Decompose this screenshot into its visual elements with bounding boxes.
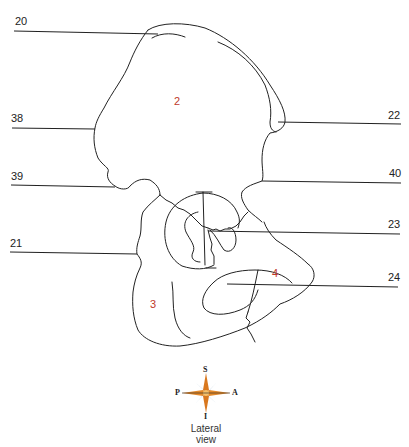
compass-inferior-label: I	[204, 413, 207, 421]
label-40: 40	[389, 168, 401, 179]
leader-line-40	[262, 181, 401, 183]
label-20: 20	[15, 16, 27, 27]
view-caption-line-2: view	[176, 435, 236, 446]
compass-posterior-label: P	[175, 389, 180, 397]
view-caption-line-1: Lateral	[176, 424, 236, 435]
leader-line-20	[14, 31, 158, 34]
view-caption: Lateral view	[176, 424, 236, 445]
label-23: 23	[388, 219, 400, 230]
leader-line-21	[10, 252, 137, 254]
label-38: 38	[11, 113, 23, 124]
compass-superior-label: S	[203, 366, 207, 374]
region-label-3: 3	[150, 299, 156, 310]
leader-line-24	[227, 284, 398, 287]
hip-bone-outline	[0, 0, 409, 447]
region-label-2: 2	[174, 96, 180, 107]
leader-line-38	[12, 128, 95, 129]
leader-line-23	[208, 231, 400, 234]
hip-bone-diagram: 20 38 39 21 22 40 23 24 2 3 4 S I P A La…	[0, 0, 409, 447]
label-24: 24	[388, 272, 400, 283]
label-39: 39	[11, 171, 23, 182]
label-21: 21	[10, 238, 22, 249]
leader-line-22	[278, 122, 401, 124]
compass-rose-icon	[182, 373, 230, 413]
compass-anterior-label: A	[232, 389, 238, 397]
leader-line-39	[11, 185, 115, 187]
region-label-4: 4	[272, 268, 278, 279]
label-22: 22	[388, 110, 400, 121]
